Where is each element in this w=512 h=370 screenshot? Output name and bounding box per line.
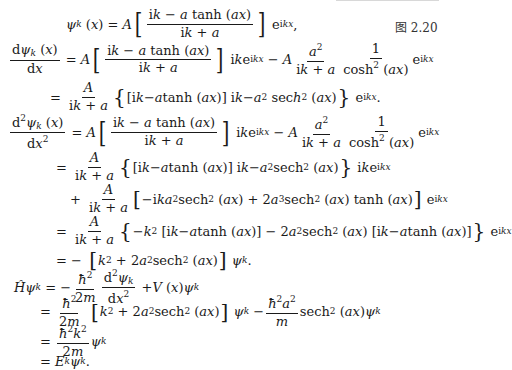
equation-12: = Ekψk.: [40, 355, 90, 368]
equation-8: = − [k2 + 2a2sech2 (ax)] ψk.: [56, 250, 252, 270]
equation-4: d2ψk (x)dx2 = A [ ik − a tanh (ax)ik + a…: [8, 113, 439, 152]
equation-1: ψk (x) = A [ ik − a tanh (ax)ik + a ] ei…: [66, 8, 297, 41]
top-rule: [336, 0, 439, 1]
figure-label: 图 2.20: [395, 18, 438, 35]
equation-5: = Aik + a {[ik − a tanh (ax)] ik − a2sec…: [56, 151, 391, 184]
equation-6: + Aik + a [−ika2sech2 (ax) + 2a3sech2 (a…: [70, 183, 448, 216]
equation-7: = Aik + a {−k2 [ik − a tanh (ax)] − 2a2s…: [56, 215, 512, 248]
equation-2: dψk (x)dx = A [ ik − a tanh (ax)ik + a ]…: [8, 42, 434, 78]
equation-3: = Aik + a {[ik − a tanh (ax)] ik − a2 se…: [50, 81, 381, 114]
